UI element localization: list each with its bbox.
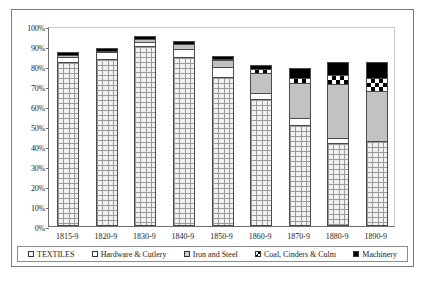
plot-area: 0%10%20%30%40%50%60%70%80%90%100% — [48, 27, 395, 227]
bar-segment[interactable] — [212, 67, 234, 77]
y-axis-tick-mark — [46, 188, 49, 189]
bar-segment[interactable] — [212, 77, 234, 226]
chart-frame: 0%10%20%30%40%50%60%70%80%90%100% 1815-9… — [11, 9, 414, 267]
x-axis-tick-label: 1880-9 — [326, 232, 349, 241]
y-axis-tick-label: 80% — [31, 64, 45, 73]
y-axis-tick-mark — [46, 48, 49, 49]
x-axis-tick-label: 1860-9 — [249, 232, 272, 241]
bar-segment[interactable] — [289, 83, 311, 118]
bar-segment[interactable] — [96, 59, 118, 226]
stacked-bar[interactable] — [173, 41, 195, 226]
bar-segment[interactable] — [327, 62, 349, 75]
stacked-bar[interactable] — [250, 65, 272, 226]
bar-segment[interactable] — [57, 62, 79, 226]
chart-plot-wrapper: 0%10%20%30%40%50%60%70%80%90%100% 1815-9… — [12, 10, 413, 266]
bar-segment[interactable] — [327, 75, 349, 84]
legend-swatch-coal-icon — [255, 251, 261, 257]
y-axis-tick-mark — [46, 148, 49, 149]
y-axis-tick-label: 10% — [31, 204, 45, 213]
y-axis-tick-mark — [46, 168, 49, 169]
bar-segment[interactable] — [327, 84, 349, 138]
bar-segment[interactable] — [289, 68, 311, 78]
x-axis-tick-label: 1840-9 — [172, 232, 195, 241]
y-axis-tick-label: 50% — [31, 124, 45, 133]
stacked-bar[interactable] — [134, 36, 156, 226]
legend-label: Machinery — [362, 250, 397, 259]
bar-segment[interactable] — [289, 125, 311, 226]
y-axis-tick-label: 30% — [31, 164, 45, 173]
bar-segment[interactable] — [173, 49, 195, 57]
y-axis-tick-mark — [46, 128, 49, 129]
legend-label: TEXTILES — [37, 250, 74, 259]
y-axis-tick-label: 100% — [27, 24, 45, 33]
legend-swatch-textiles-icon — [28, 251, 34, 257]
legend-item-textiles[interactable]: TEXTILES — [28, 250, 74, 259]
y-axis-tick-label: 40% — [31, 144, 45, 153]
legend-swatch-hardware-icon — [92, 251, 98, 257]
legend-swatch-machinery-icon — [353, 251, 359, 257]
x-axis-tick-label: 1830-9 — [133, 232, 156, 241]
y-axis-tick-mark — [46, 68, 49, 69]
x-axis-tick-label: 1820-9 — [94, 232, 117, 241]
legend-item-hardware[interactable]: Hardware & Cutlery — [92, 250, 167, 259]
stacked-bar[interactable] — [96, 48, 118, 226]
y-axis-tick-label: 90% — [31, 44, 45, 53]
y-axis-tick-mark — [46, 228, 49, 229]
x-axis-tick-label: 1870-9 — [287, 232, 310, 241]
y-axis-tick-mark — [46, 28, 49, 29]
bar-segment[interactable] — [366, 78, 388, 91]
legend-label: Hardware & Cutlery — [101, 250, 167, 259]
bar-segment[interactable] — [289, 118, 311, 125]
legend-item-iron[interactable]: Iron and Steel — [184, 250, 238, 259]
legend-item-coal[interactable]: Coal, Cinders & Culm — [255, 250, 336, 259]
x-axis-tick-label: 1890-9 — [364, 232, 387, 241]
bar-segment[interactable] — [212, 60, 234, 67]
stacked-bar[interactable] — [366, 62, 388, 226]
bar-segment[interactable] — [327, 143, 349, 226]
bar-segment[interactable] — [250, 73, 272, 93]
stacked-bar[interactable] — [212, 56, 234, 226]
bar-segment[interactable] — [173, 57, 195, 226]
bar-segment[interactable] — [250, 99, 272, 226]
y-axis-tick-mark — [46, 208, 49, 209]
legend-label: Coal, Cinders & Culm — [264, 250, 336, 259]
stacked-bar[interactable] — [57, 52, 79, 226]
stacked-bar[interactable] — [327, 62, 349, 226]
x-axis-tick-label: 1815-9 — [56, 232, 79, 241]
y-axis-tick-label: 70% — [31, 84, 45, 93]
legend-item-machinery[interactable]: Machinery — [353, 250, 397, 259]
y-axis-tick-label: 20% — [31, 184, 45, 193]
bar-segment[interactable] — [134, 46, 156, 226]
legend-label: Iron and Steel — [193, 250, 238, 259]
legend-swatch-iron-icon — [184, 251, 190, 257]
bar-segment[interactable] — [366, 141, 388, 226]
chart-legend: TEXTILESHardware & CutleryIron and Steel… — [17, 246, 408, 262]
y-axis-tick-mark — [46, 108, 49, 109]
x-axis-tick-label: 1850-9 — [210, 232, 233, 241]
bar-segment[interactable] — [366, 62, 388, 78]
stacked-bar[interactable] — [289, 68, 311, 226]
bar-segment[interactable] — [96, 52, 118, 59]
bar-segment[interactable] — [366, 91, 388, 141]
y-axis-tick-label: 0% — [35, 224, 45, 233]
y-axis-tick-mark — [46, 88, 49, 89]
y-axis-tick-label: 60% — [31, 104, 45, 113]
